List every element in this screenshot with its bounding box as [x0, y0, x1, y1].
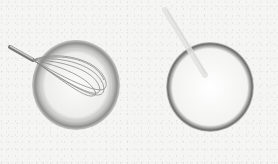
- left-bowl: [32, 40, 120, 130]
- photo-illustration: [0, 0, 278, 164]
- photo-scene: [0, 0, 278, 164]
- right-bowl: [166, 42, 254, 132]
